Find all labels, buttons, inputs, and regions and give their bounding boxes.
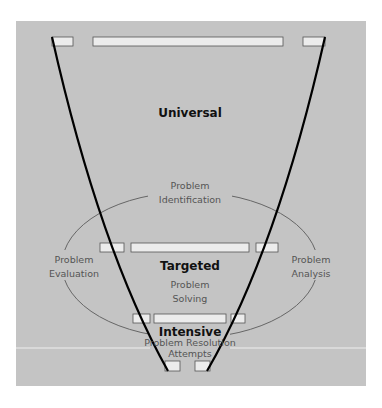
label-solving-1: Problem — [171, 279, 210, 290]
label-identification-1: Problem — [171, 180, 210, 191]
label-evaluation-2: Evaluation — [49, 268, 99, 279]
label-identification-2: Identification — [159, 194, 221, 205]
label-solving-2: Solving — [173, 293, 208, 304]
label-analysis-2: Analysis — [291, 268, 330, 279]
tier-universal: Universal — [158, 106, 222, 120]
tier-targeted: Targeted — [160, 259, 220, 273]
label-analysis-1: Problem — [292, 254, 331, 265]
label-resolution-2: Attempts — [168, 348, 212, 359]
label-resolution-1: Problem Resolution — [144, 337, 236, 348]
label-evaluation-1: Problem — [55, 254, 94, 265]
tiered-support-diagram: Universal Targeted Intensive Problem Ide… — [0, 0, 382, 408]
